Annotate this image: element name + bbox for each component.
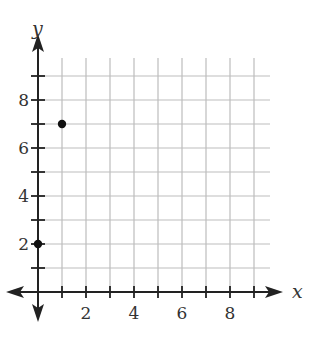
data-point	[34, 240, 42, 248]
axis-ticks	[31, 76, 254, 298]
x-tick-label: 4	[129, 303, 140, 323]
data-point	[58, 120, 66, 128]
x-axis-label: x	[292, 280, 303, 302]
y-axis-label: y	[31, 17, 43, 39]
grid-lines	[38, 58, 270, 292]
x-tick-label: 6	[177, 303, 188, 323]
axes	[6, 34, 283, 322]
tick-labels: 24682468	[18, 90, 235, 323]
x-tick-label: 8	[225, 303, 236, 323]
y-tick-label: 8	[18, 90, 29, 110]
y-tick-label: 4	[18, 186, 29, 206]
coordinate-plane: 24682468 x y	[0, 0, 315, 340]
x-tick-label: 2	[81, 303, 92, 323]
y-tick-label: 2	[18, 234, 29, 254]
y-tick-label: 6	[18, 138, 29, 158]
